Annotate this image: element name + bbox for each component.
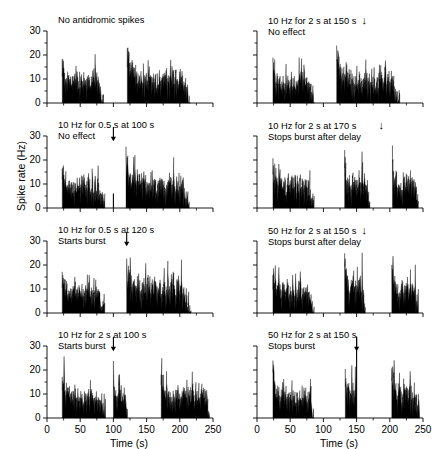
y-tick-label: 10: [29, 283, 41, 294]
stim-arrow: [111, 127, 116, 141]
x-tick-label: 250: [415, 424, 432, 435]
panel-8-plot: 050100150200250: [256, 332, 432, 434]
y-tick-label: 30: [29, 235, 41, 246]
panel-5-plot: 0102030: [46, 227, 242, 329]
y-tick-label: 20: [29, 49, 41, 60]
burst-trace-2: [127, 257, 191, 313]
panel-3-plot: 0102030: [46, 122, 242, 224]
burst-trace-1: [62, 54, 104, 103]
x-tick-label: 150: [348, 424, 365, 435]
panel-6-plot: [256, 227, 432, 329]
x-axis-label-right: Time (s): [239, 437, 432, 449]
y-axis-label: Spike rate (Hz): [15, 121, 27, 231]
x-axis-label-left: Time (s): [29, 437, 229, 449]
x-tick-label: 50: [285, 424, 297, 435]
y-tick-label: 20: [29, 259, 41, 270]
y-tick-label: 20: [29, 154, 41, 165]
panel-4: 10 Hz for 2 s at 170 s↓Stops burst after…: [256, 122, 432, 224]
burst-trace-2: [345, 253, 366, 313]
burst-trace-2: [113, 361, 127, 418]
panel-8: 05010015020025050 Hz for 2 s at 150 sSto…: [256, 332, 432, 434]
panel-1-plot: 0102030: [46, 17, 242, 119]
burst-trace-1: [273, 58, 314, 103]
burst-trace-2: [337, 46, 400, 103]
y-tick-label: 30: [29, 25, 41, 36]
burst-trace-2: [126, 147, 190, 208]
x-tick-label: 50: [75, 424, 87, 435]
burst-trace-1: [273, 265, 314, 313]
burst-trace-1: [273, 158, 314, 208]
panel-1: 0102030No antidromic spikes: [46, 17, 242, 119]
burst-trace-1: [273, 361, 314, 418]
panel-6: 50 Hz for 2 s at 150 s↓Stops burst after…: [256, 227, 432, 329]
x-tick-label: 200: [381, 424, 398, 435]
stim-arrow: [354, 337, 359, 351]
burst-trace-1: [62, 166, 105, 209]
burst-trace-1: [62, 356, 105, 418]
y-tick-label: 0: [35, 412, 41, 423]
burst-trace-3: [161, 358, 209, 418]
y-tick-label: 10: [29, 388, 41, 399]
panel-7: 010203005010015020025010 Hz for 2 s at 1…: [46, 332, 242, 434]
y-tick-label: 30: [29, 340, 41, 351]
burst-trace-1: [62, 272, 105, 313]
spike-rate-figure: Spike rate (Hz) 0102030No antidromic spi…: [0, 0, 432, 449]
stim-arrow: [111, 337, 116, 351]
burst-trace-3: [392, 256, 419, 313]
burst-trace-3: [392, 360, 420, 418]
x-tick-label: 100: [105, 424, 122, 435]
x-tick-label: 150: [138, 424, 155, 435]
burst-trace-2: [345, 150, 370, 208]
y-tick-label: 0: [35, 202, 41, 213]
x-tick-label: 250: [205, 424, 222, 435]
panel-3: 010203010 Hz for 0.5 s at 100 sNo effect: [46, 122, 242, 224]
y-tick-label: 20: [29, 364, 41, 375]
x-tick-label: 0: [254, 424, 260, 435]
burst-trace-3: [392, 145, 418, 208]
y-tick-label: 0: [35, 97, 41, 108]
burst-trace-2: [127, 48, 190, 103]
y-tick-label: 30: [29, 130, 41, 141]
x-tick-label: 200: [171, 424, 188, 435]
y-tick-label: 10: [29, 73, 41, 84]
panel-2: 10 Hz for 2 s at 150 s↓No effect: [256, 17, 432, 119]
panel-4-plot: [256, 122, 432, 224]
panel-2-plot: [256, 17, 432, 119]
panel-7-plot: 0102030050100150200250: [46, 332, 242, 434]
x-tick-label: 100: [315, 424, 332, 435]
x-tick-label: 0: [44, 424, 50, 435]
y-tick-label: 0: [35, 307, 41, 318]
burst-trace-2: [345, 365, 356, 418]
panel-5: 010203010 Hz for 0.5 s at 120 sStarts bu…: [46, 227, 242, 329]
y-tick-label: 10: [29, 178, 41, 189]
stim-arrow: [124, 232, 129, 246]
